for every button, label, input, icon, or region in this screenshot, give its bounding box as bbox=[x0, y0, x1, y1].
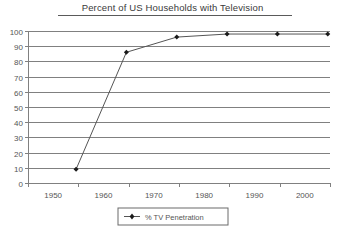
chart-legend: % TV Penetration bbox=[118, 208, 228, 225]
chart-container: Percent of US Households with Television… bbox=[0, 0, 345, 232]
x-tick-label: 1980 bbox=[195, 191, 213, 200]
y-tick-label: 0 bbox=[19, 180, 24, 189]
y-tick-label: 40 bbox=[14, 119, 23, 128]
x-axis-labels: 195019601970198019902000 bbox=[44, 191, 314, 200]
y-tick-label: 90 bbox=[14, 43, 23, 52]
x-tick-label: 1960 bbox=[95, 191, 113, 200]
y-tick-label: 30 bbox=[14, 134, 23, 143]
y-tick-label: 20 bbox=[14, 150, 23, 159]
y-tick-label: 60 bbox=[14, 89, 23, 98]
y-tick-label: 70 bbox=[14, 74, 23, 83]
y-tick-label: 50 bbox=[14, 104, 23, 113]
y-tick-label: 10 bbox=[14, 165, 23, 174]
y-axis-ticks: 0102030405060708090100 bbox=[10, 28, 28, 189]
x-tick-label: 2000 bbox=[296, 191, 314, 200]
x-tick-label: 1990 bbox=[246, 191, 264, 200]
x-tick-label: 1970 bbox=[145, 191, 163, 200]
y-tick-label: 100 bbox=[10, 28, 24, 37]
y-tick-label: 80 bbox=[14, 58, 23, 67]
x-tick-label: 1950 bbox=[44, 191, 62, 200]
chart-plot-svg: 0102030405060708090100 19501960197019801… bbox=[0, 0, 345, 232]
legend-entry-label: % TV Penetration bbox=[145, 213, 204, 222]
